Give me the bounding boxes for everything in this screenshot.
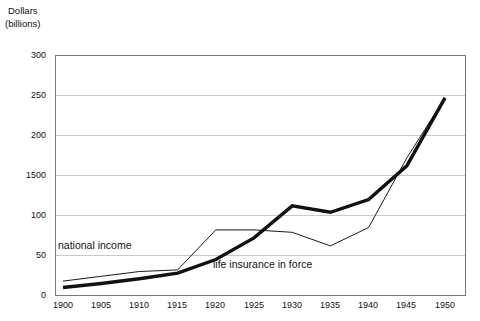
series-annotation-national-income: national income [58,239,132,251]
series-line-national-income [63,98,445,281]
gridlines [56,56,466,256]
series-annotation-life-insurance: life insurance in force [213,258,312,270]
plot-area [0,0,480,321]
chart-figure: Dollars (billions) 300 250 200 1500 100 … [0,0,480,321]
